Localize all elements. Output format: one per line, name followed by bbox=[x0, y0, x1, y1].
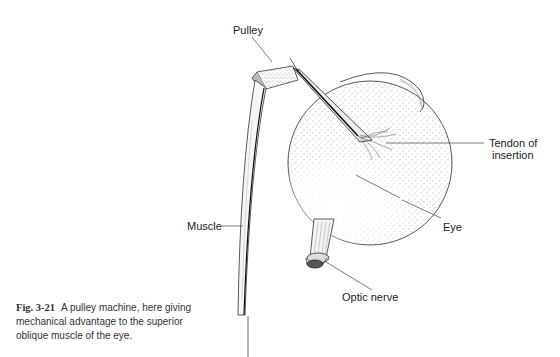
figure-number: Fig. 3-21 bbox=[16, 302, 55, 313]
label-eye: Eye bbox=[443, 221, 462, 233]
label-muscle: Muscle bbox=[187, 220, 222, 232]
optic-nerve bbox=[306, 219, 334, 268]
label-optic-nerve: Optic nerve bbox=[342, 291, 398, 303]
label-tendon-line1: Tendon of bbox=[489, 137, 537, 149]
label-pulley: Pulley bbox=[233, 24, 263, 36]
label-tendon-line2: insertion bbox=[492, 149, 537, 161]
figure-caption: Fig. 3-21A pulley machine, here giving m… bbox=[16, 301, 216, 343]
eyeball bbox=[278, 73, 452, 245]
label-tendon-of-insertion: Tendon of insertion bbox=[489, 137, 537, 161]
superior-oblique-muscle bbox=[238, 80, 266, 357]
